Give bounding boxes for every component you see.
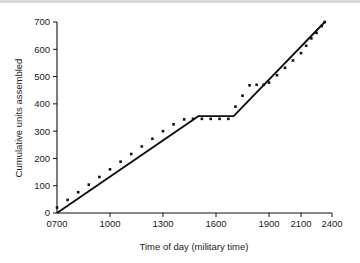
chart-figure: 0100200300400500600700 07001000130016001… — [0, 0, 360, 263]
page-top-edge — [0, 0, 360, 3]
y-tick-label: 700 — [34, 16, 50, 27]
actual-data-point — [192, 118, 195, 121]
actual-data-point — [141, 145, 144, 148]
actual-data-point — [262, 83, 265, 86]
y-axis-title: Cumulative units assembled — [13, 59, 24, 178]
actual-data-point — [66, 199, 69, 202]
x-axis-title: Time of day (military time) — [140, 241, 249, 252]
series-actual-cumulative-output — [56, 21, 326, 209]
actual-data-point — [320, 25, 323, 28]
actual-data-point — [119, 160, 122, 163]
actual-data-point — [162, 130, 165, 133]
y-tick-label: 500 — [34, 71, 50, 82]
actual-data-point — [268, 81, 271, 84]
actual-data-point — [130, 153, 133, 156]
actual-data-point — [276, 74, 279, 77]
x-tick-label: 1600 — [205, 218, 226, 229]
actual-data-point — [183, 118, 186, 121]
actual-data-point — [284, 67, 287, 70]
actual-data-point — [98, 176, 101, 179]
x-axis-tick-labels: 0700100013001600190021002400 — [46, 218, 342, 229]
y-tick-label: 300 — [34, 126, 50, 137]
actual-data-point — [315, 32, 318, 35]
actual-data-point — [323, 21, 326, 24]
x-tick-label: 0700 — [46, 218, 67, 229]
x-tick-label: 2400 — [321, 218, 342, 229]
actual-data-point — [292, 59, 295, 62]
actual-data-point — [201, 118, 204, 121]
y-tick-label: 400 — [34, 98, 50, 109]
actual-data-point — [109, 168, 112, 171]
actual-data-point — [227, 118, 230, 121]
actual-data-point — [172, 123, 175, 126]
actual-data-point — [88, 183, 91, 186]
actual-data-point — [241, 94, 244, 97]
x-axis-ticks — [110, 213, 332, 217]
actual-data-point — [56, 206, 59, 209]
x-tick-label: 1300 — [152, 218, 173, 229]
series-planned-cumulative-output — [57, 22, 325, 213]
y-axis-tick-labels: 0100200300400500600700 — [34, 16, 50, 218]
y-axis-ticks — [53, 22, 57, 213]
x-tick-label: 1900 — [258, 218, 279, 229]
actual-data-point — [234, 105, 237, 108]
x-tick-label: 2100 — [290, 218, 311, 229]
y-tick-label: 100 — [34, 180, 50, 191]
chart-canvas: 0100200300400500600700 07001000130016001… — [0, 0, 360, 263]
actual-data-point — [310, 37, 313, 40]
actual-data-point — [255, 83, 258, 86]
y-tick-label: 600 — [34, 44, 50, 55]
actual-data-point — [77, 191, 80, 194]
actual-data-point — [248, 84, 251, 87]
actual-data-point — [209, 118, 212, 121]
x-tick-label: 1000 — [99, 218, 120, 229]
actual-data-point — [218, 118, 221, 121]
y-tick-label: 200 — [34, 153, 50, 164]
actual-data-point — [300, 52, 303, 55]
actual-data-point — [305, 44, 308, 47]
y-tick-label: 0 — [45, 207, 50, 218]
actual-data-point — [151, 137, 154, 140]
planned-line — [57, 22, 325, 213]
